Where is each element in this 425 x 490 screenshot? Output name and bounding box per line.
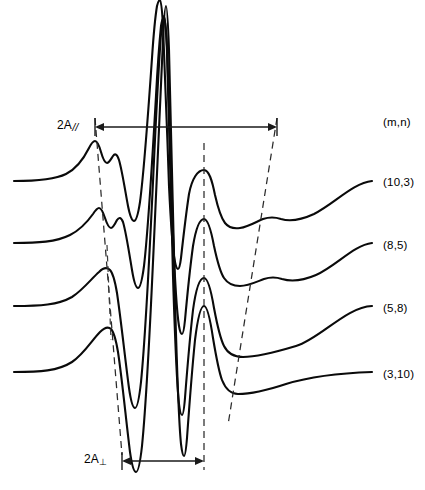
parallel-splitting-marker (95, 118, 277, 136)
parallel-arrowhead-left (95, 123, 104, 131)
perpendicular-splitting-subscript: ⊥ (99, 457, 108, 467)
trace-3-10 (14, 6, 372, 472)
series-label-10-3: (10,3) (383, 176, 414, 188)
trace-10-3 (14, 0, 372, 269)
perpendicular-arrowhead-left (122, 457, 131, 465)
perpendicular-splitting-marker (122, 452, 204, 470)
trace-group (14, 0, 372, 472)
parallel-splitting-base: 2A (57, 118, 72, 132)
perpendicular-splitting-base: 2A (84, 452, 99, 466)
perpendicular-splitting-label: 2A⊥ (84, 452, 107, 467)
trace-8-5 (14, 17, 372, 334)
perpendicular-arrowhead-right (195, 457, 204, 465)
left-parallel-guide (95, 118, 122, 455)
series-header-label: (m,n) (383, 116, 411, 128)
spectrum-plot (0, 0, 425, 490)
diagonal-trough-guide (228, 118, 277, 425)
series-label-3-10: (3,10) (383, 368, 414, 380)
parallel-splitting-subscript: // (72, 121, 79, 133)
left-perpendicular-guide (107, 245, 111, 340)
spectrum-figure: 2A// 2A⊥ (m,n) (10,3) (8,5) (5,8) (3,10) (0, 0, 425, 490)
series-label-8-5: (8,5) (383, 239, 408, 251)
parallel-splitting-label: 2A// (57, 118, 78, 133)
series-label-5-8: (5,8) (383, 302, 408, 314)
